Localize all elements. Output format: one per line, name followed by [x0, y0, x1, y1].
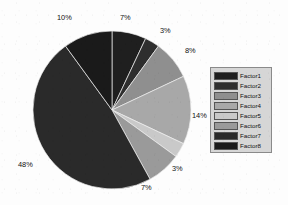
legend-item-factor4: Factor4	[214, 101, 268, 110]
pie-chart-figure: 7% 3% 8% 14% 3% 7% 48% 10% Factor1Factor…	[0, 0, 288, 205]
slice-label-factor2: 3%	[160, 26, 171, 35]
slice-label-factor7: 48%	[18, 160, 33, 169]
slice-label-factor1: 7%	[120, 13, 131, 22]
legend-swatch-icon-factor8	[214, 142, 238, 150]
legend-swatch-icon-factor3	[214, 92, 238, 100]
legend-item-factor1: Factor1	[214, 71, 268, 80]
legend-item-factor8: Factor8	[214, 141, 268, 150]
legend-item-factor5: Factor5	[214, 111, 268, 120]
legend-label: Factor5	[240, 112, 261, 120]
legend-item-factor3: Factor3	[214, 91, 268, 100]
legend-swatch-icon-factor5	[214, 112, 238, 120]
legend-swatch-icon-factor6	[214, 122, 238, 130]
legend-label: Factor4	[240, 102, 261, 110]
legend-swatch-icon-factor2	[214, 82, 238, 90]
legend-label: Factor7	[240, 132, 261, 140]
legend-item-factor6: Factor6	[214, 121, 268, 130]
legend-label: Factor3	[240, 92, 261, 100]
legend-label: Factor2	[240, 82, 261, 90]
slice-label-factor8: 10%	[57, 13, 72, 22]
legend-swatch-icon-factor7	[214, 132, 238, 140]
legend-label: Factor1	[240, 72, 261, 80]
slice-label-factor6: 7%	[141, 183, 152, 192]
legend-swatch-icon-factor1	[214, 72, 238, 80]
legend-label: Factor6	[240, 122, 261, 130]
slice-label-factor5: 3%	[172, 164, 183, 173]
legend-item-factor2: Factor2	[214, 81, 268, 90]
slice-label-factor4: 14%	[192, 111, 207, 120]
pie-slice-group	[33, 31, 191, 189]
legend-label: Factor8	[240, 142, 261, 150]
slice-label-factor3: 8%	[185, 46, 196, 55]
legend-item-factor7: Factor7	[214, 131, 268, 140]
legend-swatch-icon-factor4	[214, 102, 238, 110]
legend: Factor1Factor2Factor3Factor4Factor5Facto…	[210, 67, 272, 153]
